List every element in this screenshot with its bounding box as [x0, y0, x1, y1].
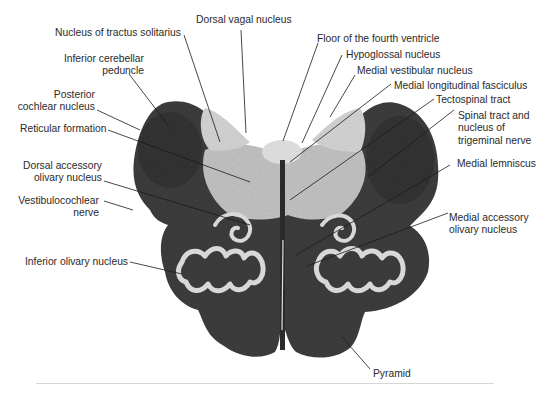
label-line: cochlear nucleus	[15, 101, 95, 113]
label-line: trigeminal nerve	[458, 135, 531, 147]
label-vestibulocochlear-nerve: Vestibulocochlear nerve	[15, 195, 99, 220]
label-line: Posterior	[15, 89, 95, 101]
label-medial-vestibular-nucleus: Medial vestibular nucleus	[357, 65, 473, 77]
figure-divider	[36, 383, 494, 384]
label-posterior-cochlear-nucleus: Posterior cochlear nucleus	[15, 89, 95, 114]
leader-floor-fourth-ventricle	[283, 43, 318, 141]
label-line: nerve	[15, 207, 99, 219]
label-dorsal-vagal-nucleus: Dorsal vagal nucleus	[196, 14, 292, 26]
label-medial-longitudinal-fasciculus: Medial longitudinal fasciculus	[394, 80, 527, 92]
label-inferior-cerebellar-peduncle: Inferior cerebellar peduncle	[47, 53, 144, 78]
label-line: nucleus of	[458, 122, 531, 134]
leader-vestibulocochlear-nerve	[104, 201, 133, 210]
vestibular-light-left	[201, 108, 250, 151]
label-pyramid: Pyramid	[373, 368, 411, 380]
label-line: olivary nucleus	[449, 224, 529, 236]
label-line: Inferior cerebellar	[47, 53, 144, 65]
label-hypoglossal-nucleus: Hypoglossal nucleus	[346, 49, 440, 61]
label-line: Vestibulocochlear	[15, 195, 99, 207]
label-floor-fourth-ventricle: Floor of the fourth ventricle	[317, 33, 439, 45]
label-line: Spinal tract and	[458, 110, 531, 122]
tissue-section	[133, 101, 438, 357]
label-line: olivary nucleus	[20, 172, 102, 184]
label-line: Dorsal accessory	[20, 160, 102, 172]
label-tectospinal-tract: Tectospinal tract	[436, 94, 510, 106]
leader-dorsal-vagal-nucleus	[241, 30, 246, 133]
label-dorsal-accessory-olivary-nucleus: Dorsal accessory olivary nucleus	[20, 160, 102, 185]
label-spinal-tract-trigeminal-nerve: Spinal tract and nucleus of trigeminal n…	[458, 110, 531, 147]
label-inferior-olivary-nucleus: Inferior olivary nucleus	[25, 256, 128, 268]
label-line: Medial accessory	[449, 212, 529, 224]
label-medial-accessory-olivary-nucleus: Medial accessory olivary nucleus	[449, 212, 529, 237]
label-nucleus-tractus-solitarius: Nucleus of tractus solitarius	[55, 27, 181, 39]
label-medial-lemniscus: Medial lemniscus	[457, 158, 536, 170]
label-reticular-formation: Reticular formation	[20, 123, 106, 135]
label-line: peduncle	[47, 65, 144, 77]
leader-pyramid	[342, 337, 370, 369]
